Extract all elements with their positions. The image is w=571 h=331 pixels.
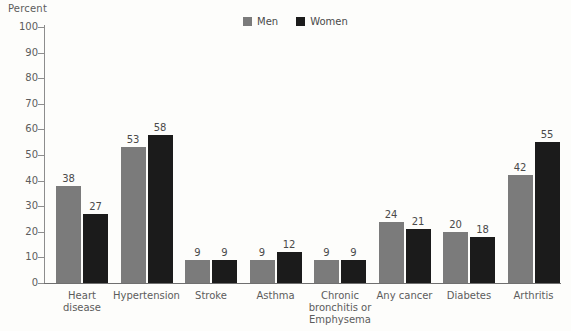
legend-swatch-men — [243, 17, 252, 26]
y-tick-label: 30 — [10, 200, 38, 211]
bar-women — [148, 135, 173, 283]
legend-swatch-women — [296, 17, 305, 26]
y-tick: 10 — [0, 257, 38, 258]
y-tick: 70 — [0, 104, 38, 105]
y-tick-label: 40 — [10, 175, 38, 186]
bar-value-label: 12 — [277, 239, 302, 250]
bar-men — [508, 175, 533, 283]
y-tick-label: 90 — [10, 47, 38, 58]
bar-women — [406, 229, 431, 283]
bar-value-label: 27 — [83, 201, 108, 212]
y-tick-mark — [38, 155, 44, 156]
y-tick-mark — [38, 181, 44, 182]
bar-men — [379, 222, 404, 283]
chart-legend: Men Women — [243, 16, 348, 27]
bar-women — [277, 252, 302, 283]
y-tick-label: 0 — [10, 277, 38, 288]
bar-value-label: 9 — [314, 247, 339, 258]
y-tick-label: 70 — [10, 98, 38, 109]
y-tick: 30 — [0, 206, 38, 207]
y-axis-title: Percent — [8, 3, 47, 14]
y-tick: 90 — [0, 53, 38, 54]
bar-men — [121, 147, 146, 283]
bar-group: 912 — [250, 27, 302, 283]
y-tick-mark — [38, 78, 44, 79]
y-tick: 20 — [0, 232, 38, 233]
y-tick-mark — [38, 206, 44, 207]
y-tick-mark — [38, 283, 44, 284]
bar-men — [250, 260, 275, 283]
legend-entry-men: Men — [243, 16, 278, 27]
bar-value-label: 9 — [250, 247, 275, 258]
legend-label-women: Women — [310, 16, 348, 27]
y-tick: 40 — [0, 181, 38, 182]
bar-men — [185, 260, 210, 283]
bar-men — [314, 260, 339, 283]
bar-group: 2421 — [379, 27, 431, 283]
bar-group: 99 — [185, 27, 237, 283]
y-tick-mark — [38, 27, 44, 28]
bar-value-label: 9 — [341, 247, 366, 258]
bar-women — [83, 214, 108, 283]
y-tick-label: 50 — [10, 149, 38, 160]
bar-value-label: 53 — [121, 134, 146, 145]
y-tick: 50 — [0, 155, 38, 156]
x-axis-line — [44, 283, 561, 284]
y-tick-mark — [38, 104, 44, 105]
bar-value-label: 18 — [470, 224, 495, 235]
bar-group: 5358 — [121, 27, 173, 283]
y-tick-label: 10 — [10, 251, 38, 262]
bar-value-label: 58 — [148, 122, 173, 133]
y-tick-mark — [38, 257, 44, 258]
bar-value-label: 24 — [379, 209, 404, 220]
y-tick-mark — [38, 129, 44, 130]
y-tick-label: 60 — [10, 123, 38, 134]
x-axis-category-label: Arthritis — [494, 290, 571, 302]
bar-group: 99 — [314, 27, 366, 283]
bar-value-label: 38 — [56, 173, 81, 184]
bar-value-label: 55 — [535, 129, 560, 140]
y-tick-label: 20 — [10, 226, 38, 237]
bar-men — [56, 186, 81, 283]
plot-area: 382753589991299242120184255 — [44, 27, 560, 283]
bar-value-label: 21 — [406, 216, 431, 227]
bar-group: 3827 — [56, 27, 108, 283]
bar-men — [443, 232, 468, 283]
bar-women — [470, 237, 495, 283]
y-tick-mark — [38, 232, 44, 233]
legend-label-men: Men — [257, 16, 278, 27]
bar-women — [535, 142, 560, 283]
bar-value-label: 9 — [212, 247, 237, 258]
y-tick-label: 80 — [10, 72, 38, 83]
y-tick: 80 — [0, 78, 38, 79]
bar-group: 4255 — [508, 27, 560, 283]
bar-women — [341, 260, 366, 283]
y-tick: 60 — [0, 129, 38, 130]
bar-chart: Percent Men Women 0102030405060708090100… — [0, 0, 571, 331]
bar-value-label: 9 — [185, 247, 210, 258]
bar-value-label: 20 — [443, 219, 468, 230]
y-tick-mark — [38, 53, 44, 54]
y-tick: 0 — [0, 283, 38, 284]
bar-women — [212, 260, 237, 283]
y-tick-label: 100 — [10, 21, 38, 32]
bar-value-label: 42 — [508, 162, 533, 173]
y-tick: 100 — [0, 27, 38, 28]
legend-entry-women: Women — [296, 16, 348, 27]
bar-group: 2018 — [443, 27, 495, 283]
